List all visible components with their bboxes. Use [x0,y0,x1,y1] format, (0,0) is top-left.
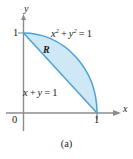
line-eq-y: y [38,87,43,98]
annotation-circle-equation: x2+y2=1 [51,29,92,40]
axis-label-y: y [24,4,28,14]
figure-container: y x 0 1 1 x2+y2=1 x+y=1 R (a) [0,0,133,159]
circle-eq-rhs: 1 [87,28,92,39]
tick-label-x-one: 1 [94,115,99,126]
circle-eq-x-exponent: 2 [56,27,59,34]
plot-canvas [0,0,133,159]
circle-eq-y-exponent: 2 [74,27,77,34]
tick-label-origin: 0 [12,115,17,126]
line-eq-x: x [23,87,28,98]
x-axis-arrow-icon [113,110,121,116]
line-eq-rhs: 1 [52,87,57,98]
y-axis-arrow-icon [21,14,26,20]
annotation-line-equation: x+y=1 [23,88,57,99]
line-eq-equals: = [44,87,50,98]
circle-eq-plus: + [61,28,67,39]
figure-caption: (a) [0,139,133,150]
axis-label-x: x [123,104,127,114]
line-eq-plus: + [30,87,36,98]
tick-label-y-one: 1 [13,28,18,39]
circle-eq-equals: = [79,28,85,39]
region-label-R: R [43,45,50,55]
